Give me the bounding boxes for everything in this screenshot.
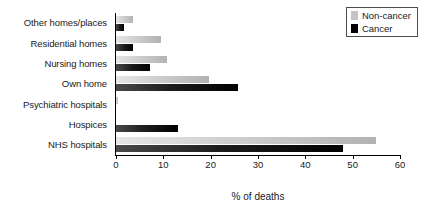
bar-cancer bbox=[116, 125, 178, 132]
bar-group bbox=[116, 74, 400, 94]
category-label: NHS hospitals bbox=[0, 135, 112, 155]
bar-group bbox=[116, 135, 400, 155]
x-axis-tick-label: 50 bbox=[347, 160, 358, 170]
legend-item-noncancer: Non-cancer bbox=[351, 11, 411, 21]
category-label: Psychiatric hospitals bbox=[0, 94, 112, 114]
legend: Non-cancer Cancer bbox=[346, 7, 418, 37]
bar-noncancer bbox=[116, 137, 376, 144]
bar-group bbox=[116, 94, 400, 114]
bar-noncancer bbox=[116, 76, 209, 83]
category-label: Nursing homes bbox=[0, 54, 112, 74]
x-axis-tick-label: 40 bbox=[300, 160, 311, 170]
bar-cancer bbox=[116, 64, 150, 71]
x-axis-title: % of deaths bbox=[116, 192, 400, 202]
bar-cancer bbox=[116, 145, 343, 152]
bar-cancer bbox=[116, 24, 124, 31]
category-label: Residential homes bbox=[0, 33, 112, 53]
x-axis-tick-label: 20 bbox=[205, 160, 216, 170]
category-label: Hospices bbox=[0, 114, 112, 134]
category-label: Other homes/places bbox=[0, 13, 112, 33]
bar-group bbox=[116, 114, 400, 134]
bar-cancer bbox=[116, 44, 133, 51]
legend-swatch-cancer bbox=[351, 24, 358, 33]
x-axis-tick-label: 30 bbox=[253, 160, 264, 170]
bar-group bbox=[116, 54, 400, 74]
legend-swatch-noncancer bbox=[351, 11, 358, 20]
bar-noncancer bbox=[116, 16, 133, 23]
legend-label-noncancer: Non-cancer bbox=[362, 11, 411, 21]
category-axis-labels: Other homes/places Residential homes Nur… bbox=[0, 13, 112, 155]
category-label: Own home bbox=[0, 74, 112, 94]
x-axis-tick-label: 0 bbox=[113, 160, 118, 170]
bar-cancer bbox=[116, 84, 238, 91]
x-axis-tick-label: 10 bbox=[158, 160, 169, 170]
bar-noncancer bbox=[116, 56, 167, 63]
bar-noncancer bbox=[116, 36, 161, 43]
bar-chart: Other homes/places Residential homes Nur… bbox=[0, 0, 427, 219]
legend-label-cancer: Cancer bbox=[362, 24, 393, 34]
legend-item-cancer: Cancer bbox=[351, 24, 411, 34]
bar-noncancer bbox=[116, 97, 118, 104]
x-axis-tick-label: 60 bbox=[395, 160, 406, 170]
